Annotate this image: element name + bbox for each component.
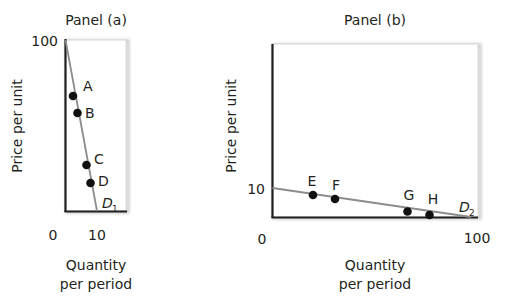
panel-b-x-label-line1: Quantity xyxy=(345,257,406,273)
point-h-label: H xyxy=(428,191,439,207)
point-b xyxy=(73,109,82,118)
panel-b-y-tick-10: 10 xyxy=(247,181,265,197)
panel-a: Panel (a) A B C D D 1 100 0 10 Price per… xyxy=(9,12,132,292)
point-a xyxy=(69,92,78,101)
chart-canvas: Panel (a) A B C D D 1 100 0 10 Price per… xyxy=(0,0,509,300)
panel-b-x-label-line2: per period xyxy=(339,276,411,292)
panel-a-x-label-line1: Quantity xyxy=(66,257,127,273)
panel-b-frame xyxy=(272,44,478,217)
panel-a-title: Panel (a) xyxy=(65,12,127,28)
panel-a-y-label: Price per unit xyxy=(9,79,25,173)
point-g xyxy=(403,207,412,216)
panel-a-x-tick-0: 0 xyxy=(49,227,58,243)
point-e xyxy=(309,191,318,200)
point-f xyxy=(331,195,340,204)
panel-a-x-tick-10: 10 xyxy=(88,227,106,243)
point-h xyxy=(425,211,434,220)
point-c-label: C xyxy=(94,151,104,167)
panel-b-x-tick-0: 0 xyxy=(258,231,267,247)
point-d xyxy=(86,179,95,188)
panel-a-y-tick-100: 100 xyxy=(31,33,58,49)
d2-subscript: 2 xyxy=(469,208,475,218)
point-b-label: B xyxy=(85,105,95,121)
panel-b-y-label: Price per unit xyxy=(223,79,239,173)
panel-b-x-tick-100: 100 xyxy=(464,230,491,246)
point-d-label: D xyxy=(98,173,109,189)
d1-subscript: 1 xyxy=(112,204,118,214)
point-c xyxy=(82,161,91,170)
panel-b: Panel (b) E F G H D 2 10 0 100 Price per… xyxy=(223,12,490,292)
point-f-label: F xyxy=(332,177,340,193)
point-e-label: E xyxy=(308,173,317,189)
panel-b-title: Panel (b) xyxy=(344,12,406,28)
point-a-label: A xyxy=(83,78,93,94)
panel-a-x-label-line2: per period xyxy=(60,276,132,292)
panel-a-frame xyxy=(65,40,126,211)
point-g-label: G xyxy=(404,187,415,203)
